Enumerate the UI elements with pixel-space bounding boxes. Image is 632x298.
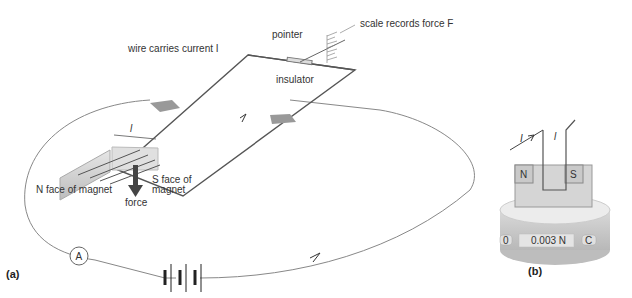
contact-block <box>150 100 180 112</box>
svg-text:pointer: pointer <box>272 29 303 40</box>
svg-text:C: C <box>585 235 592 246</box>
svg-text:(a): (a) <box>6 268 20 280</box>
svg-text:A: A <box>76 251 83 262</box>
svg-text:I: I <box>520 133 523 144</box>
svg-text:S: S <box>570 169 577 180</box>
svg-text:0.003 N: 0.003 N <box>531 235 566 246</box>
pointer <box>300 40 345 62</box>
svg-text:(b): (b) <box>528 265 542 277</box>
diagram-canvas: A <box>0 0 632 298</box>
ammeter-icon: A <box>70 247 88 265</box>
svg-text:force: force <box>125 197 148 208</box>
force-scale <box>327 32 337 63</box>
svg-text:scale records force F: scale records force F <box>360 18 453 29</box>
svg-text:0: 0 <box>503 235 509 246</box>
svg-text:insulator: insulator <box>276 74 314 85</box>
arrow-icon <box>310 253 320 262</box>
panel-b: 0 0.003 N C N S I l (b) <box>500 120 610 277</box>
svg-text:magnet: magnet <box>152 184 186 195</box>
svg-text:N face of magnet: N face of magnet <box>36 184 112 195</box>
svg-text:l: l <box>554 131 557 142</box>
svg-text:wire carries current I: wire carries current I <box>127 43 219 54</box>
svg-text:N: N <box>520 169 527 180</box>
panel-a: A <box>6 18 474 292</box>
svg-text:l: l <box>130 123 133 134</box>
